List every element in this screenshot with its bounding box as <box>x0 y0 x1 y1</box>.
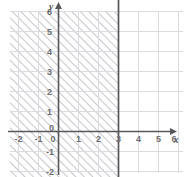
coordinate-graph: -2 -1 0 1 2 3 4 5 6 6 5 4 3 2 1 0 -1 -2 <box>0 0 185 177</box>
x-axis-label: x <box>173 135 179 145</box>
y-tick-3: 3 <box>47 67 52 77</box>
x-tick-1: 1 <box>76 134 81 144</box>
x-tick-4: 4 <box>136 134 141 144</box>
x-tick-2: 2 <box>96 134 101 144</box>
y-axis-label: y <box>48 2 54 12</box>
y-tick-0: 0 <box>49 123 54 133</box>
x-tick-3: 3 <box>116 134 121 144</box>
x-tick-neg1: -1 <box>34 134 42 144</box>
y-tick-4: 4 <box>47 47 52 57</box>
x-tick-0: 0 <box>50 134 55 144</box>
y-tick-neg2: -2 <box>46 167 54 177</box>
y-axis-arrow-icon <box>55 2 62 9</box>
y-tick-2: 2 <box>47 87 52 97</box>
y-tick-1: 1 <box>47 107 52 117</box>
solution-region-shading <box>10 11 118 177</box>
y-tick-neg1: -1 <box>46 147 54 157</box>
x-axis-tick-labels: -2 -1 0 1 2 3 4 5 6 <box>14 134 176 144</box>
y-tick-5: 5 <box>47 27 52 37</box>
graph-canvas: -2 -1 0 1 2 3 4 5 6 6 5 4 3 2 1 0 -1 -2 <box>0 0 185 177</box>
x-tick-5: 5 <box>156 134 161 144</box>
x-tick-neg2: -2 <box>14 134 22 144</box>
